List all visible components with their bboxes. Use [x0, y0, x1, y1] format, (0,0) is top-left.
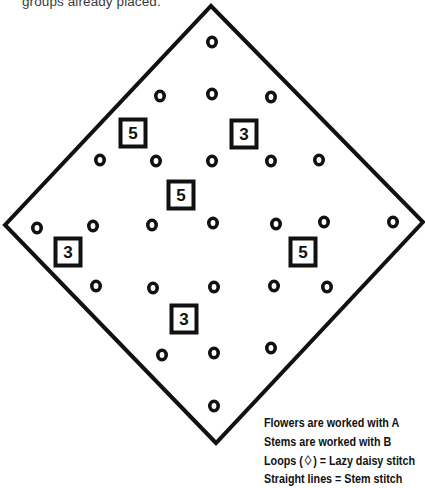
legend-line-flowers: Flowers are worked with A	[264, 414, 415, 433]
legend-line-straight: Straight lines = Stem stitch	[264, 470, 415, 488]
group-box-5: 5	[291, 239, 316, 266]
flower-marker-icon	[389, 217, 397, 227]
flower-marker-icon	[323, 282, 331, 292]
flower-marker-icon	[208, 89, 216, 99]
legend-line-stems: Stems are worked with B	[264, 433, 415, 452]
flower-marker-icon	[272, 219, 280, 229]
flower-marker-icon	[156, 91, 164, 101]
legend: Flowers are worked with A Stems are work…	[264, 414, 415, 488]
flower-marker-icon	[92, 281, 100, 291]
group-box-5: 5	[169, 182, 194, 209]
group-count-label: 5	[298, 243, 307, 262]
flower-marker-icon	[267, 343, 275, 353]
group-box-5: 5	[121, 120, 146, 147]
flower-marker-icon	[210, 348, 218, 358]
flower-marker-icon	[152, 156, 160, 166]
group-markers: 535353	[56, 120, 316, 333]
group-box-3: 3	[172, 306, 197, 333]
flower-marker-icon	[89, 221, 97, 231]
flower-marker-icon	[267, 156, 275, 166]
flower-marker-icon	[208, 37, 216, 47]
flower-marker-icon	[208, 156, 216, 166]
flower-marker-icon	[209, 218, 217, 228]
flower-marker-icon	[158, 350, 166, 360]
flower-marker-icon	[320, 217, 328, 227]
flower-marker-icon	[267, 92, 275, 102]
flower-marker-icon	[149, 283, 157, 293]
flower-marker-icon	[315, 155, 323, 165]
group-count-label: 5	[128, 124, 137, 143]
group-box-3: 3	[232, 121, 257, 148]
flower-marker-icon	[270, 281, 278, 291]
legend-line-loops: Loops (♢) = Lazy daisy stitch	[264, 452, 415, 471]
flower-markers	[33, 37, 397, 411]
flower-marker-icon	[210, 282, 218, 292]
flower-marker-icon	[210, 401, 218, 411]
group-count-label: 5	[176, 186, 185, 205]
flower-marker-icon	[96, 155, 104, 165]
diamond-outline	[5, 6, 423, 443]
flower-marker-icon	[148, 220, 156, 230]
group-count-label: 3	[63, 243, 72, 262]
group-count-label: 3	[239, 125, 248, 144]
group-box-3: 3	[56, 239, 81, 266]
flower-marker-icon	[33, 223, 41, 233]
group-count-label: 3	[179, 310, 188, 329]
